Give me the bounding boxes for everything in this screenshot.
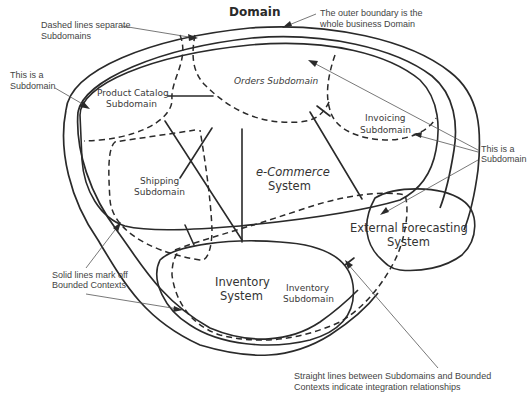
domain-diagram: Domain Dashed lines separate Subdomains … — [0, 0, 527, 398]
svg-text:Subdomains: Subdomains — [41, 31, 92, 41]
svg-text:Subdomain: Subdomain — [106, 99, 157, 109]
annotation-subdomain-right: This is a Subdomain — [308, 60, 527, 215]
svg-text:Solid lines mark off: Solid lines mark off — [52, 270, 128, 280]
domain-title: Domain — [229, 5, 280, 19]
annotation-subdomain-left: This is a Subdomain — [10, 70, 90, 109]
svg-text:Subdomain: Subdomain — [10, 81, 56, 91]
svg-text:This is a: This is a — [10, 70, 44, 80]
product-catalog-subdomain-label: Product Catalog — [97, 88, 169, 98]
external-forecasting-system-label: External Forecasting — [350, 221, 468, 235]
svg-text:System: System — [220, 289, 263, 303]
svg-text:Subdomain: Subdomain — [134, 187, 185, 197]
svg-text:System: System — [268, 179, 311, 193]
inventory-subdomain-label: Inventory — [286, 283, 330, 293]
invoicing-subdomain-label: Invoicing — [365, 113, 406, 123]
svg-text:The outer boundary is the: The outer boundary is the — [320, 8, 423, 18]
integration-lines — [165, 96, 362, 265]
ecommerce-system-label: e-Commerce — [256, 165, 330, 179]
annotation-straight-lines: Straight lines between Subdomains and Bo… — [294, 260, 491, 392]
svg-text:Bounded Contexts: Bounded Contexts — [52, 280, 127, 290]
svg-text:Dashed lines separate: Dashed lines separate — [41, 20, 131, 30]
svg-text:whole business Domain: whole business Domain — [319, 19, 415, 29]
inventory-system-label: Inventory — [215, 275, 270, 289]
svg-text:Subdomain: Subdomain — [481, 154, 527, 164]
svg-text:System: System — [387, 235, 430, 249]
ecommerce-context-boundary — [80, 43, 438, 229]
annotation-outer-boundary: The outer boundary is the whole business… — [282, 8, 423, 29]
svg-text:Contexts indicate integration: Contexts indicate integration relationsh… — [294, 382, 461, 392]
bounded-context-labels: e-Commerce System Inventory System Exter… — [215, 165, 468, 303]
svg-text:This is a: This is a — [481, 144, 515, 154]
svg-text:Straight lines between Subdoma: Straight lines between Subdomains and Bo… — [294, 371, 491, 381]
annotation-dashed-lines: Dashed lines separate Subdomains — [41, 20, 198, 41]
shipping-subdomain-label: Shipping — [140, 176, 179, 186]
svg-text:Subdomain: Subdomain — [360, 125, 411, 135]
svg-text:Subdomain: Subdomain — [283, 294, 334, 304]
orders-subdomain-label: Orders Subdomain — [234, 76, 318, 86]
